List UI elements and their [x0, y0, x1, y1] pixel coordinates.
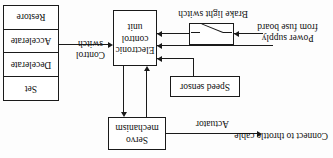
switch-left-contact-icon: [223, 32, 232, 33]
actuator-label: Actuator: [196, 118, 229, 129]
power-supply-label-line1: Power supply: [257, 32, 318, 43]
auxiliary-input-arrow-head-icon: [157, 43, 162, 49]
power-supply-arrow-head-icon: [234, 31, 239, 37]
block-speed-sensor: Speed sensor: [170, 76, 240, 97]
ecu-label-line1: Electronic: [115, 44, 154, 55]
control-switch-table: Set Decelerate Accelerate Restore: [3, 5, 59, 101]
servo-label-line1: Servo: [126, 134, 148, 145]
table-row[interactable]: Decelerate: [4, 53, 58, 77]
control-switch-label-line1: Control: [76, 49, 105, 60]
block-servo-mechanism: Servo mechanism: [108, 117, 166, 150]
servo-label-line2: mechanism: [115, 122, 158, 133]
switch-right-contact-icon: [191, 32, 200, 33]
brake-light-switch-label: Brake light switch: [178, 8, 248, 19]
brake-light-switch-symbol: [189, 23, 234, 45]
power-supply-label-group: Power supply from fuse board: [257, 21, 318, 43]
servo-to-ecu-line: [146, 71, 147, 117]
speed-sensor-to-ecu-line: [157, 58, 194, 59]
ecu-to-servo-line: [123, 66, 124, 112]
diagram-canvas: Servo mechanism Actuator Connect to thro…: [0, 0, 333, 158]
switch-blade-icon: [201, 23, 223, 33]
power-supply-label-line2: from fuse board: [257, 21, 318, 32]
connect-to-throttle-cable-label: Connect to throttle cable: [234, 130, 328, 141]
control-switch-label-line2: switch: [76, 38, 105, 49]
table-row[interactable]: Accelerate: [4, 29, 58, 53]
control-switch-arrow-head-icon: [108, 42, 113, 48]
ecu-label-line2: control: [122, 32, 149, 43]
speed-sensor-label: Speed sensor: [180, 81, 230, 92]
servo-to-ecu-arrow-head-icon: [144, 66, 150, 71]
speed-sensor-arrow-head-icon: [157, 56, 162, 62]
auxiliary-input-line: [157, 45, 273, 46]
control-switch-label-group: Control switch: [76, 38, 105, 60]
ecu-label-line3: unit: [128, 21, 143, 32]
table-row[interactable]: Restore: [4, 6, 58, 29]
block-electronic-control-unit: Electronic control unit: [113, 10, 157, 66]
speed-sensor-drop-line: [193, 59, 194, 76]
switch-to-ecu-arrow-head-icon: [157, 31, 162, 37]
table-row[interactable]: Set: [4, 76, 58, 100]
ecu-to-servo-arrow-head-icon: [121, 112, 127, 117]
